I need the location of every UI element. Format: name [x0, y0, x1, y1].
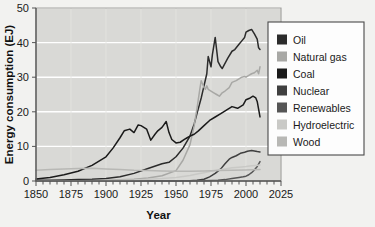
legend-label-oil: Oil	[293, 34, 306, 46]
y-tick-label-30: 30	[17, 71, 29, 83]
x-tick-label-1850: 1850	[24, 188, 48, 200]
energy-consumption-chart-figure: 18501875190019251950197520002025 0102030…	[0, 0, 375, 227]
y-tick-label-10: 10	[17, 140, 29, 152]
legend-swatch-renewables	[277, 103, 287, 113]
legend-label-natural-gas: Natural gas	[293, 51, 347, 63]
legend-swatch-hydroelectric	[277, 120, 287, 130]
y-tick-label-0: 0	[23, 175, 29, 187]
x-tick-label-1925: 1925	[129, 188, 153, 200]
x-tick-label-1975: 1975	[199, 188, 223, 200]
y-tick-label-50: 50	[17, 2, 29, 14]
y-axis-title: Energy consumption (EJ)	[3, 25, 15, 164]
legend: OilNatural gasCoalNuclearRenewablesHydro…	[268, 22, 364, 155]
legend-label-coal: Coal	[293, 68, 315, 80]
legend-label-renewables: Renewables	[293, 102, 351, 114]
chart-canvas: 18501875190019251950197520002025 0102030…	[0, 0, 375, 227]
y-axis-tick-labels: 01020304050	[17, 2, 29, 187]
x-axis-tick-labels: 18501875190019251950197520002025	[24, 188, 293, 200]
legend-swatch-natural-gas	[277, 52, 287, 62]
x-axis-title: Year	[146, 209, 171, 221]
plot-background	[36, 8, 281, 181]
x-tick-label-2000: 2000	[234, 188, 258, 200]
x-tick-label-1950: 1950	[164, 188, 188, 200]
x-tick-label-1875: 1875	[59, 188, 83, 200]
y-tick-label-20: 20	[17, 106, 29, 118]
x-tick-label-2025: 2025	[269, 188, 293, 200]
plot-background-group	[36, 8, 281, 181]
legend-swatch-coal	[277, 69, 287, 79]
y-tick-label-40: 40	[17, 37, 29, 49]
legend-label-wood: Wood	[293, 136, 320, 148]
legend-swatch-nuclear	[277, 86, 287, 96]
x-tick-label-1900: 1900	[94, 188, 118, 200]
legend-swatch-wood	[277, 137, 287, 147]
legend-swatch-oil	[277, 35, 287, 45]
legend-label-nuclear: Nuclear	[293, 85, 330, 97]
legend-label-hydroelectric: Hydroelectric	[293, 119, 354, 131]
